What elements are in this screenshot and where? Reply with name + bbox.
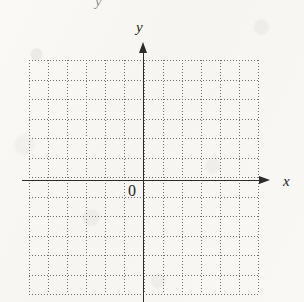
gridline-vertical (48, 60, 49, 294)
gridline-vertical (67, 60, 68, 294)
gridline-vertical (105, 60, 106, 294)
origin-label: 0 (128, 183, 136, 199)
x-axis-line (22, 180, 260, 181)
gridline-vertical (124, 60, 125, 294)
top-crop-artifact: y (95, 0, 102, 9)
gridline-vertical (201, 60, 202, 294)
y-axis-line (143, 50, 144, 302)
y-axis-arrowhead-icon (139, 42, 147, 53)
gridline-vertical (86, 60, 87, 294)
y-axis-label: y (136, 20, 143, 35)
gridline-vertical (182, 60, 183, 294)
gridline-vertical (29, 60, 30, 294)
x-axis-arrowhead-icon (259, 176, 270, 184)
gridline-vertical (239, 60, 240, 294)
gridline-vertical (163, 60, 164, 294)
x-axis-label: x (283, 174, 290, 189)
gridline-vertical (220, 60, 221, 294)
coordinate-grid-figure: y x y 0 (0, 0, 304, 302)
